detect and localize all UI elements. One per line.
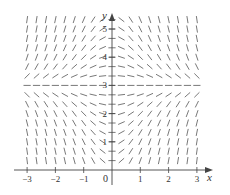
- slope-segment: [91, 130, 96, 135]
- slope-segment: [82, 120, 86, 126]
- slope-segment: [54, 54, 57, 60]
- slope-segment: [187, 16, 188, 23]
- slope-segment: [99, 37, 105, 40]
- slope-segment: [27, 25, 28, 32]
- slope-segment: [73, 138, 76, 145]
- slope-segment: [129, 139, 133, 145]
- slope-segment: [63, 120, 66, 127]
- slope-segment: [45, 157, 46, 164]
- slope-segment: [63, 54, 67, 60]
- slope-segment: [196, 16, 197, 23]
- slope-segment: [64, 129, 66, 136]
- slope-segment: [55, 16, 57, 23]
- slope-segment: [149, 148, 151, 155]
- x-tick-label: 1: [138, 174, 143, 184]
- x-tick-label: −2: [51, 174, 61, 184]
- slope-segment: [26, 110, 28, 117]
- slope-segment: [158, 157, 160, 164]
- slope-segment: [91, 139, 95, 145]
- slope-segment: [34, 74, 39, 79]
- slope-segment: [118, 112, 125, 114]
- slope-segment: [62, 93, 68, 96]
- slope-segment: [158, 45, 161, 52]
- slope-segment: [26, 44, 28, 51]
- slope-segment: [158, 26, 160, 33]
- slope-segment: [52, 93, 58, 97]
- slope-segment: [90, 55, 96, 59]
- slope-segment: [73, 157, 75, 164]
- slope-segment: [63, 45, 66, 52]
- slope-segment: [195, 63, 198, 69]
- slope-segment: [45, 44, 47, 51]
- slope-segment: [148, 54, 152, 60]
- slope-segment: [177, 25, 179, 32]
- slope-segment: [35, 101, 39, 107]
- slope-segment: [45, 129, 47, 136]
- slope-segment: [187, 138, 188, 145]
- slope-segment: [196, 138, 197, 145]
- slope-segment: [166, 64, 170, 70]
- slope-segment: [138, 111, 143, 116]
- y-tick-label: 1: [103, 137, 108, 147]
- slope-segment: [90, 112, 96, 116]
- slope-segment: [63, 111, 67, 117]
- slope-segment: [55, 148, 57, 155]
- slope-segment: [100, 158, 105, 163]
- slope-segment: [177, 54, 180, 61]
- slope-segment: [36, 25, 37, 32]
- slope-segment: [157, 54, 161, 60]
- slope-segment: [27, 157, 28, 164]
- slope-segment: [167, 44, 170, 51]
- slope-segment: [196, 44, 198, 51]
- slope-segment: [157, 111, 161, 117]
- slope-segment: [99, 76, 106, 77]
- slope-segment: [196, 157, 197, 164]
- slope-segment: [99, 103, 106, 105]
- slope-segment: [71, 75, 78, 78]
- slope-segment: [81, 65, 87, 69]
- slope-segment: [186, 110, 189, 117]
- slope-segment: [45, 16, 46, 23]
- slope-segment: [137, 102, 143, 106]
- y-axis-label: y: [101, 9, 107, 21]
- slope-segment: [118, 140, 124, 144]
- slope-segment: [25, 101, 28, 107]
- slope-segment: [54, 110, 57, 116]
- slope-segment: [45, 148, 46, 155]
- slope-segment: [129, 17, 133, 23]
- slope-segment: [196, 148, 197, 155]
- slope-segment: [176, 101, 180, 107]
- slope-segment: [91, 157, 95, 163]
- slope-segment: [118, 94, 125, 95]
- slope-segment: [148, 129, 151, 136]
- slope-segment: [128, 130, 133, 135]
- slope-segment: [118, 56, 125, 58]
- slope-segment: [91, 26, 95, 32]
- slope-segment: [186, 120, 188, 127]
- slope-segment: [25, 63, 28, 69]
- slope-segment: [158, 120, 161, 127]
- slope-segment: [91, 148, 95, 154]
- slope-segment: [167, 120, 170, 127]
- slope-segment: [158, 129, 160, 136]
- slope-segment: [64, 35, 66, 42]
- slope-segment: [177, 35, 179, 42]
- slope-segment: [148, 111, 152, 117]
- slope-segment: [90, 45, 95, 50]
- slope-segment: [64, 148, 66, 155]
- slope-segment: [36, 157, 37, 164]
- slope-segment: [176, 64, 180, 70]
- slope-segment: [99, 46, 106, 49]
- slope-segment: [139, 26, 142, 32]
- slope-segment: [129, 148, 133, 154]
- slope-segment: [139, 148, 142, 155]
- slope-segment: [138, 120, 142, 126]
- slope-segment: [81, 55, 86, 60]
- x-tick-label: −3: [22, 174, 32, 184]
- slope-segment: [129, 157, 133, 163]
- y-tick-label: 3: [103, 80, 108, 90]
- slope-segment: [128, 112, 134, 116]
- slope-segment: [157, 64, 162, 69]
- slope-segment: [185, 92, 190, 97]
- slope-segment: [148, 138, 151, 145]
